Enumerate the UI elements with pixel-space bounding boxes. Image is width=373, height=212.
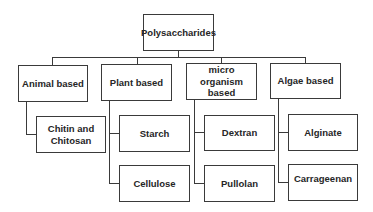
branch-line-micro	[194, 100, 195, 184]
category-node-algae: Algae based	[270, 63, 341, 99]
branch-line-animal	[26, 101, 27, 134]
root-node-polysaccharides: Polysaccharides	[143, 14, 214, 51]
node-label: Cellulose	[133, 178, 175, 189]
branch-tick-pullolan	[194, 183, 204, 184]
node-label: Algae based	[278, 75, 334, 86]
leaf-node-dextran: Dextran	[204, 115, 275, 151]
category-node-plant: Plant based	[101, 64, 172, 101]
branch-tick-dextran	[194, 132, 204, 133]
branch-tick-chitin	[26, 134, 36, 135]
node-label: Plant based	[110, 77, 163, 88]
node-label: Chitin and Chitosan	[39, 123, 103, 146]
category-node-animal: Animal based	[18, 65, 88, 102]
node-label: Carrageenan	[294, 173, 352, 184]
category-bus-line	[52, 57, 306, 58]
node-label: Alginate	[304, 127, 341, 138]
node-label: micro organism based	[189, 64, 254, 98]
branch-tick-alginate	[278, 132, 288, 133]
leaf-node-pullolan: Pullolan	[204, 165, 275, 202]
leaf-node-starch: Starch	[119, 115, 190, 152]
branch-tick-starch	[109, 133, 119, 134]
node-label: Dextran	[222, 127, 257, 138]
leaf-node-cellulose: Cellulose	[119, 165, 190, 202]
drop-line-animal	[52, 57, 53, 65]
category-node-micro-organism: micro organism based	[186, 63, 257, 100]
root-stem-line	[178, 50, 179, 57]
node-label: Starch	[140, 128, 170, 139]
branch-line-plant	[109, 101, 110, 184]
leaf-node-carrageenan: Carrageenan	[288, 164, 358, 201]
branch-tick-cellulose	[109, 183, 119, 184]
node-label: Pullolan	[221, 178, 258, 189]
drop-line-plant	[137, 57, 138, 64]
node-label: Polysaccharides	[141, 27, 216, 38]
leaf-node-alginate: Alginate	[288, 114, 358, 151]
leaf-node-chitin-chitosan: Chitin and Chitosan	[36, 116, 106, 153]
branch-tick-carrageenan	[278, 182, 288, 183]
branch-line-algae	[278, 99, 279, 183]
node-label: Animal based	[22, 78, 84, 89]
